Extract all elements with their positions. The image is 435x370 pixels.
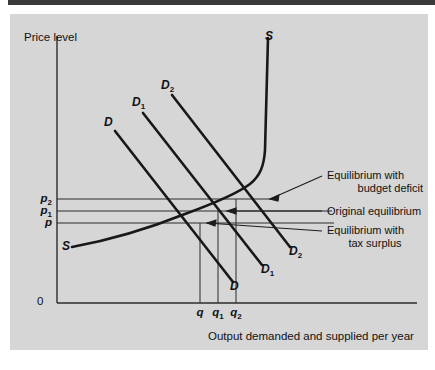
annotation-budget-deficit: Equilibrium with budget deficit — [327, 169, 423, 194]
arrowhead-tax-surplus — [207, 220, 216, 226]
curve-label-D1-bottom: D1 — [261, 263, 274, 279]
leader-tax-surplus — [207, 223, 322, 231]
curve-label-D2-top: D2 — [161, 79, 174, 95]
curve-label-D1-top: D1 — [132, 96, 145, 112]
annotation-budget-deficit-line1: Equilibrium with — [327, 169, 423, 182]
y-tick-p: p — [16, 216, 52, 231]
figure-container: Price level Output demanded and supplied… — [0, 0, 435, 370]
origin-label: 0 — [37, 295, 43, 308]
annotation-budget-deficit-line2: budget deficit — [327, 182, 423, 195]
annotation-original-equilibrium: Original equilibrium — [327, 205, 421, 218]
curve-supply — [72, 38, 268, 247]
curve-label-D-bottom: D — [230, 280, 239, 296]
x-tick-q2: q2 — [222, 306, 250, 321]
x-axis-label: Output demanded and supplied per year — [208, 330, 414, 343]
curve-label-S-bottom: S — [62, 240, 70, 254]
curve-label-S-top: S — [265, 30, 273, 44]
annotation-tax-surplus-line1: Equilibrium with — [327, 224, 423, 237]
curve-label-D2-bottom: D2 — [289, 245, 302, 261]
annotation-tax-surplus: Equilibrium with tax surplus — [327, 224, 423, 249]
annotation-tax-surplus-line2: tax surplus — [327, 237, 423, 250]
arrowhead-original — [227, 208, 236, 214]
y-axis-label: Price level — [24, 31, 77, 44]
curve-label-D-top: D — [104, 116, 113, 132]
arrowhead-budget-deficit — [270, 195, 279, 201]
